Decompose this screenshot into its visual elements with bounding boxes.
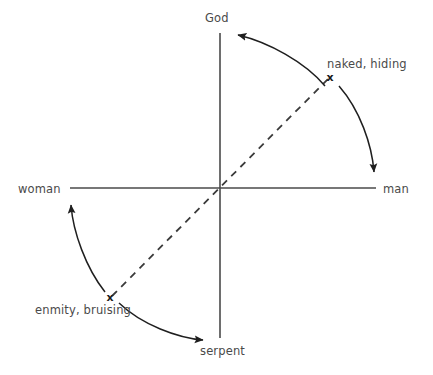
axis-label-god: God: [205, 11, 229, 25]
axis-label-man: man: [383, 182, 409, 196]
diagram-canvas: x x God serpent woman man naked, hiding …: [0, 0, 433, 375]
axis-label-serpent: serpent: [200, 344, 245, 358]
arrow-to-god: [238, 35, 325, 86]
arrow-to-serpent: [119, 303, 203, 340]
marker-label-enmity-bruising: enmity, bruising: [35, 303, 131, 317]
marker-x-naked-hiding: x: [326, 71, 333, 84]
arrow-to-man: [339, 86, 374, 172]
marker-label-naked-hiding: naked, hiding: [327, 57, 407, 71]
arrow-to-woman: [71, 205, 105, 292]
axis-label-woman: woman: [18, 182, 61, 196]
